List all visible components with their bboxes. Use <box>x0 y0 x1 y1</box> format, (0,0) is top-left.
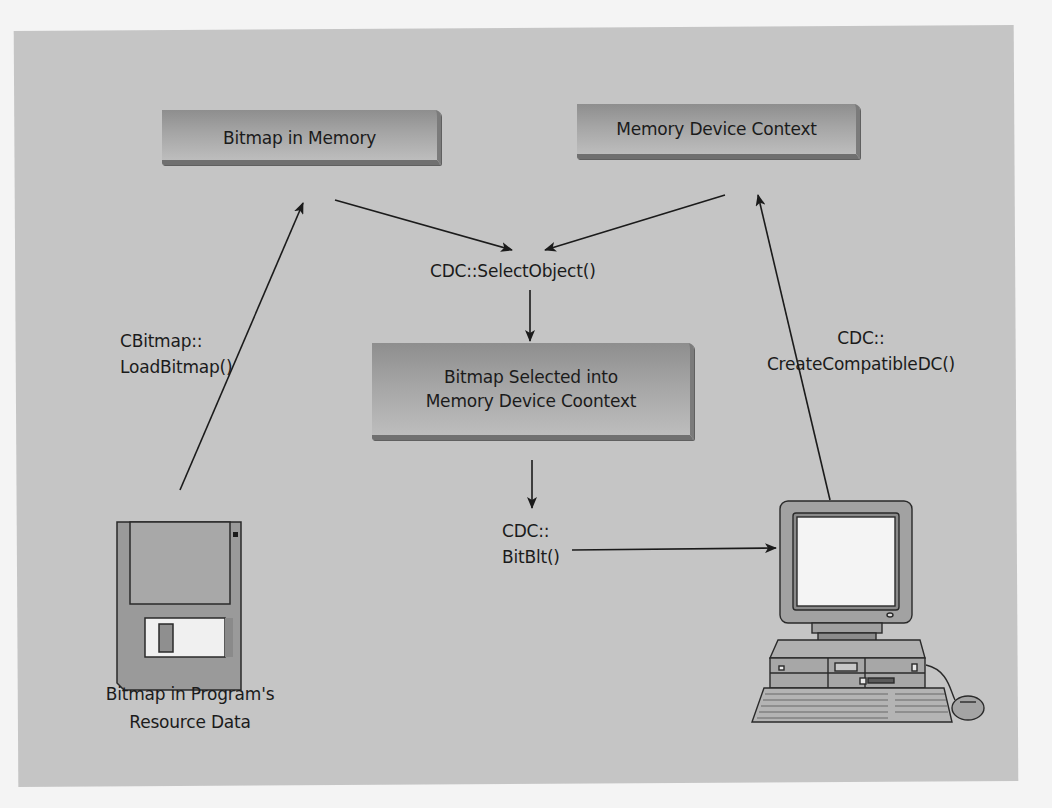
label-select-object-text: CDC::SelectObject() <box>430 261 596 281</box>
floppy-disk-icon <box>117 522 241 690</box>
node-bitmap-selected-line1: Bitmap Selected into <box>444 365 618 389</box>
label-bitblt-line1: CDC:: <box>502 518 560 544</box>
label-create-dc: CDC:: CreateCompatibleDC() <box>751 325 971 377</box>
label-resource-data-line2: Resource Data <box>70 708 310 736</box>
node-bitmap-selected: Bitmap Selected into Memory Device Coont… <box>372 343 694 440</box>
node-memory-dc-label: Memory Device Context <box>616 117 816 141</box>
label-load-bitmap-line1: CBitmap:: <box>120 328 232 354</box>
label-load-bitmap: CBitmap:: LoadBitmap() <box>120 328 232 380</box>
label-resource-data-line1: Bitmap in Program's <box>70 680 310 708</box>
label-bitblt-line2: BitBlt() <box>502 544 560 570</box>
label-create-dc-line1: CDC:: <box>751 325 971 351</box>
label-create-dc-line2: CreateCompatibleDC() <box>751 351 971 377</box>
node-bitmap-in-memory-label: Bitmap in Memory <box>223 126 376 150</box>
label-resource-data: Bitmap in Program's Resource Data <box>70 680 310 736</box>
desktop-computer-icon <box>752 501 984 722</box>
label-load-bitmap-line2: LoadBitmap() <box>120 354 232 380</box>
arrow-bitmap-to-select <box>335 200 512 250</box>
arrow-bitblt-to-computer <box>572 548 776 550</box>
node-bitmap-selected-line2: Memory Device Coontext <box>426 389 637 413</box>
node-memory-device-context: Memory Device Context <box>577 104 860 159</box>
arrow-dc-to-select <box>545 195 725 250</box>
label-select-object: CDC::SelectObject() <box>430 259 596 283</box>
node-bitmap-in-memory: Bitmap in Memory <box>162 110 441 165</box>
label-bitblt: CDC:: BitBlt() <box>502 518 560 570</box>
